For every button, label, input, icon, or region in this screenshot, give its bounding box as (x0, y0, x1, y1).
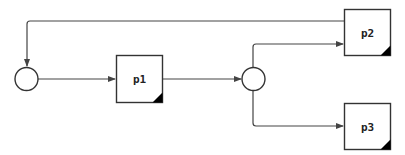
flow-diagram: p1 p2 p3 (0, 0, 405, 155)
node-label-p3: p3 (361, 121, 374, 134)
process-node-p2[interactable]: p2 (345, 10, 391, 56)
process-node-p1[interactable]: p1 (117, 56, 163, 103)
split-circle-node[interactable] (242, 68, 265, 91)
node-label-p2: p2 (361, 27, 374, 40)
node-label-p1: p1 (133, 73, 147, 86)
start-circle-node[interactable] (15, 68, 38, 91)
edge-split-to-p3 (253, 90, 343, 126)
process-node-p3[interactable]: p3 (345, 104, 391, 150)
edge-split-to-p2 (253, 44, 343, 68)
